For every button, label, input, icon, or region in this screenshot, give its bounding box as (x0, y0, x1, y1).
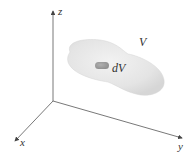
y-axis-label: y (177, 140, 183, 152)
element-label: dV (112, 61, 127, 75)
x-axis (15, 101, 53, 141)
z-axis-label: z (57, 5, 63, 17)
diagram-canvas: z x y V dV (0, 0, 194, 162)
region-label: V (139, 35, 148, 49)
y-axis (53, 101, 182, 138)
x-axis-label: x (19, 136, 25, 148)
volume-element-dv (95, 62, 109, 69)
